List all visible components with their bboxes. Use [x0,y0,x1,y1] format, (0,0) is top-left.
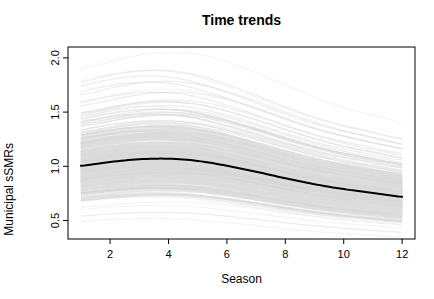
municipal-curves-layer [81,52,402,237]
x-tick-label: 6 [224,248,230,260]
x-axis: 24681012 [107,239,408,260]
y-axis: 0.51.01.52.0 [49,50,68,228]
y-tick-label: 1.5 [49,104,61,119]
y-tick-label: 1.0 [49,159,61,174]
x-tick-label: 12 [396,248,408,260]
x-tick-label: 4 [165,248,171,260]
chart-title: Time trends [68,12,415,28]
x-tick-label: 8 [282,248,288,260]
y-tick-label: 2.0 [49,50,61,65]
x-tick-label: 2 [107,248,113,260]
y-tick-label: 0.5 [49,213,61,228]
plot-area: 246810120.51.01.52.0 [0,0,434,299]
x-axis-label: Season [68,272,415,286]
x-tick-label: 10 [338,248,350,260]
figure-window: 246810120.51.01.52.0 Time trends Municip… [0,0,434,299]
y-axis-label-text: Municipal sSMRs [2,143,16,236]
